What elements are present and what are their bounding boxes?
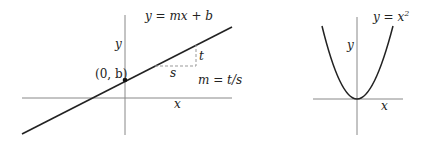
linear-equation: y = mx + b — [144, 9, 213, 23]
parabola-equation: y = x2 — [372, 9, 409, 24]
x-axis-label: x — [174, 97, 181, 111]
slope-formula: m = t/s — [198, 73, 242, 87]
intercept-label: (0, b) — [95, 67, 127, 81]
x-axis-label: x — [381, 99, 388, 113]
run-label: s — [170, 66, 176, 80]
linear-plot: y = mx + b y x (0, b) t s m = t/s — [22, 9, 242, 135]
parabola-plot: y = x2 y x — [313, 9, 409, 135]
y-axis-label: y — [114, 37, 122, 51]
y-axis-label: y — [346, 38, 354, 52]
rise-label: t — [199, 49, 204, 63]
diagram-canvas: y = mx + b y x (0, b) t s m = t/s y = x2… — [0, 0, 431, 145]
